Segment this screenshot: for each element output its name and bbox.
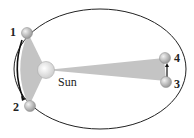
- planet-position-2: [25, 101, 36, 112]
- label-point-3: 3: [174, 78, 180, 90]
- label-point-2: 2: [13, 101, 19, 113]
- planet-position-4: [160, 53, 171, 64]
- sun-label: Sun: [58, 76, 77, 88]
- label-point-1: 1: [10, 26, 16, 38]
- label-point-4: 4: [174, 52, 180, 64]
- sun: [38, 62, 55, 79]
- orbit-diagram: [0, 0, 194, 138]
- planet-position-3: [161, 77, 172, 88]
- planet-position-1: [22, 28, 33, 39]
